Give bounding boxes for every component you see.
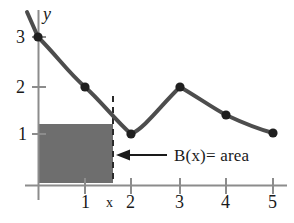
data-point-0 (33, 32, 42, 41)
data-point-1 (80, 82, 89, 91)
data-point-2 (126, 129, 135, 138)
figure-area-function-graph: y 3 2 1 1 x 2 3 4 5 B(x)= area (0, 0, 294, 223)
x-tick-label-1: 1 (81, 193, 90, 211)
shaded-area-rect (38, 124, 113, 183)
graph-canvas (0, 0, 294, 223)
x-tick-label-4: 4 (221, 193, 230, 211)
function-curve (27, 12, 273, 134)
annotation-arrow-icon (116, 150, 167, 161)
data-point-4 (221, 110, 230, 119)
x-tick-label-2: 2 (126, 193, 135, 211)
data-point-3 (175, 82, 184, 91)
x-tick-label-x: x (106, 196, 113, 210)
y-tick-label-1: 1 (18, 125, 27, 143)
x-tick-label-5: 5 (268, 193, 277, 211)
y-tick-label-2: 2 (16, 78, 25, 96)
data-point-5 (268, 128, 277, 137)
x-tick-label-3: 3 (175, 193, 184, 211)
y-axis-name: y (43, 5, 51, 23)
y-tick-label-3: 3 (16, 28, 25, 46)
area-annotation-label: B(x)= area (174, 147, 249, 164)
